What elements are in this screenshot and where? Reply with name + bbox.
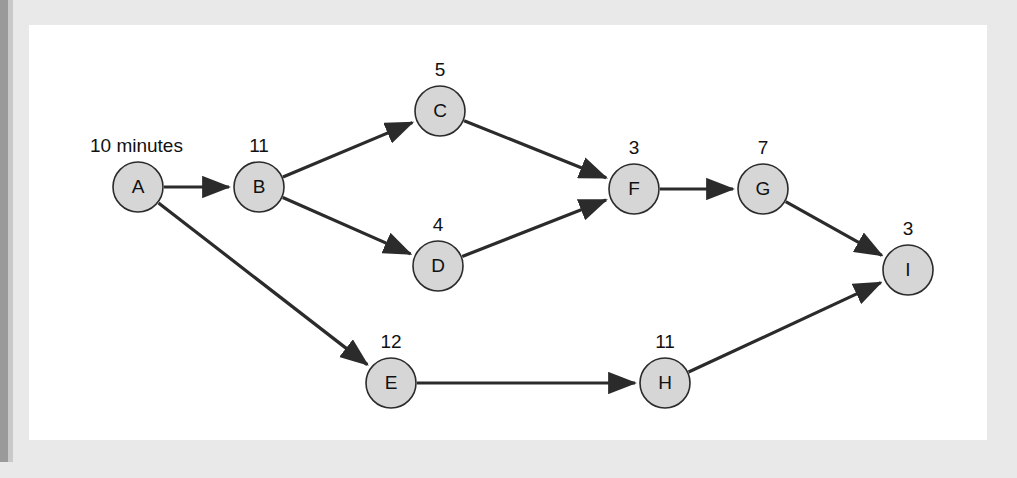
node-weight-h: 11 <box>655 331 675 352</box>
node-f[interactable]: F3 <box>609 137 659 214</box>
figure-page: A10 minutesB11C5D4E12F3G7H11I3 <box>0 0 1017 478</box>
node-label-h: H <box>658 372 672 393</box>
node-label-g: G <box>756 178 771 199</box>
node-g[interactable]: G7 <box>738 137 788 214</box>
edge-b-to-d <box>283 198 411 254</box>
node-a[interactable]: A10 minutes <box>90 135 183 212</box>
node-b[interactable]: B11 <box>234 135 284 212</box>
node-weight-f: 3 <box>629 137 640 158</box>
edges-layer <box>159 121 882 383</box>
node-weight-g: 7 <box>758 137 769 158</box>
node-weight-i: 3 <box>903 218 914 239</box>
edge-h-to-i <box>689 283 881 372</box>
nodes-layer: A10 minutesB11C5D4E12F3G7H11I3 <box>90 59 933 408</box>
network-diagram: A10 minutesB11C5D4E12F3G7H11I3 <box>0 0 1017 478</box>
node-weight-b: 11 <box>249 135 269 156</box>
node-label-e: E <box>385 372 398 393</box>
node-label-a: A <box>132 176 145 197</box>
node-h[interactable]: H11 <box>640 331 690 408</box>
edge-d-to-f <box>462 200 606 257</box>
node-i[interactable]: I3 <box>883 218 933 295</box>
node-c[interactable]: C5 <box>415 59 465 136</box>
node-weight-e: 12 <box>380 331 401 352</box>
node-weight-c: 5 <box>435 59 446 80</box>
edge-g-to-i <box>786 202 882 256</box>
node-label-f: F <box>628 178 640 199</box>
node-e[interactable]: E12 <box>366 331 416 408</box>
node-label-c: C <box>433 100 447 121</box>
node-weight-a: 10 minutes <box>90 135 183 156</box>
edge-c-to-f <box>464 121 606 178</box>
edge-a-to-e <box>159 203 368 365</box>
node-weight-d: 4 <box>433 214 444 235</box>
node-d[interactable]: D4 <box>413 214 463 291</box>
node-label-d: D <box>431 255 445 276</box>
edge-b-to-c <box>283 123 412 177</box>
node-label-i: I <box>905 259 910 280</box>
node-label-b: B <box>253 176 266 197</box>
